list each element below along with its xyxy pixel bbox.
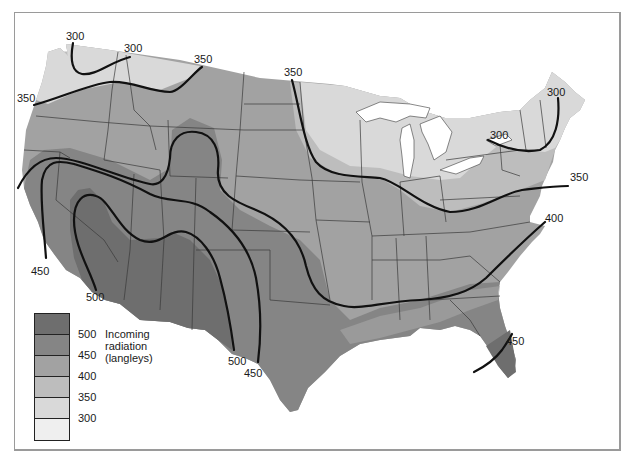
contour-label-nw-350-a: 350 [194, 54, 212, 65]
contour-label-fl-450: 450 [506, 336, 524, 347]
contour-label-nw-300-b: 300 [124, 43, 142, 54]
legend-swatch-400 [35, 356, 69, 377]
legend-value-500: 500 [78, 328, 96, 340]
contour-label-az-500: 500 [86, 292, 104, 303]
legend-value-450: 450 [78, 349, 96, 361]
legend-swatch-350 [35, 377, 69, 398]
contour-label-ny-300: 300 [490, 130, 508, 141]
legend-value-300: 300 [78, 412, 96, 424]
legend-swatch-500 [35, 314, 69, 335]
contour-label-tx-500: 500 [228, 356, 246, 367]
legend-units-text: (langleys) [105, 352, 153, 364]
legend-title: Incoming radiation (langleys) [105, 328, 153, 364]
contour-label-nw-300-a: 300 [66, 31, 84, 42]
legend-swatch-below-300 [35, 419, 69, 440]
legend-swatches [34, 313, 70, 441]
legend-title-text: Incoming radiation [105, 328, 153, 352]
legend-value-350: 350 [78, 391, 96, 403]
contour-label-va-400: 400 [545, 213, 563, 224]
legend-value-400: 400 [78, 370, 96, 382]
legend-swatch-450 [35, 335, 69, 356]
contour-label-ne-350: 350 [570, 172, 588, 183]
legend-swatch-300 [35, 398, 69, 419]
contour-label-ca-450: 450 [31, 266, 49, 277]
contour-label-tx-450: 450 [244, 368, 262, 379]
contour-label-w-350: 350 [17, 93, 35, 104]
contour-label-nd-350: 350 [284, 67, 302, 78]
contour-label-me-300: 300 [547, 87, 565, 98]
